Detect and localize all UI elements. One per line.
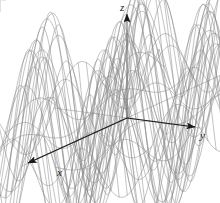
mesh-line: [5, 0, 215, 203]
surface-plot-figure: x y z: [0, 0, 220, 203]
y-axis-label: y: [200, 130, 205, 141]
mesh-line: [135, 0, 220, 191]
z-axis-label: z: [120, 2, 124, 13]
surface-plot-canvas: [0, 0, 220, 203]
x-axis-label: x: [57, 167, 62, 178]
surface-mesh: [0, 0, 220, 203]
